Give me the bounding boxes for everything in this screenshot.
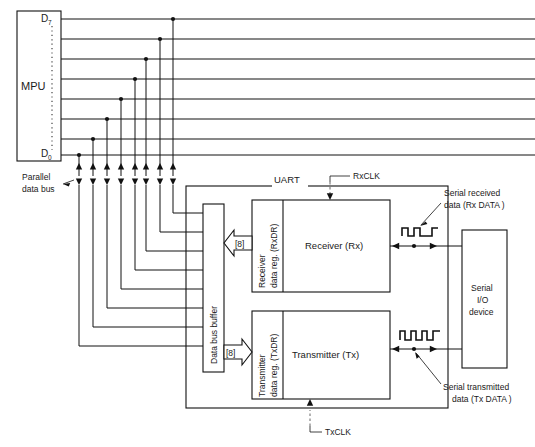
tx-waveform-tap-dot	[412, 347, 416, 351]
canvas-background	[0, 0, 535, 447]
receiver-label: Receiver (Rx)	[305, 240, 363, 251]
transmitter-reg-label-line1: Transmitter	[257, 354, 267, 397]
junction-dot-3	[119, 97, 123, 101]
uart-block-diagram: MPU D 7 D 0	[0, 0, 535, 447]
mpu-pin-d0-subscript: 0	[48, 154, 52, 161]
rx-annotation-line2: data (Rx DATA )	[444, 200, 505, 210]
data-bus-buffer-label: Data bus buffer	[209, 306, 219, 364]
junction-dot-0	[77, 153, 81, 157]
tx-annotation-line1: Serial transmitted	[443, 382, 509, 392]
rxclk-label: RxCLK	[353, 171, 380, 181]
junction-dot-7	[171, 17, 175, 21]
serial-io-device-line3: device	[469, 307, 494, 317]
uart-label: UART	[274, 174, 300, 185]
bus-label-line2: data bus	[22, 184, 55, 194]
rx-data-waveform	[402, 228, 438, 236]
junction-dot-1	[91, 137, 95, 141]
mpu-pin-d7-subscript: 7	[48, 19, 52, 26]
rx-bus-width-label: [8]	[235, 239, 244, 249]
txclk-label: TxCLK	[325, 427, 351, 437]
transmitter-reg-label-line2: data reg. (TxDR)	[269, 334, 279, 397]
rx-waveform-tap-dot	[412, 244, 416, 248]
bus-label-line1: Parallel	[22, 172, 50, 182]
junction-dot-2	[105, 117, 109, 121]
tx-bus-width-label: [8]	[226, 348, 235, 358]
tx-annotation-line2: data (Tx DATA )	[452, 394, 512, 404]
serial-io-device-line2: I/O	[477, 295, 489, 305]
junction-dot-4	[133, 77, 137, 81]
transmitter-label: Transmitter (Tx)	[292, 349, 359, 360]
receiver-reg-label-line2: data reg. (RxDR)	[269, 224, 279, 288]
receiver-reg-label-line1: Receiver	[257, 254, 267, 288]
junction-dot-5	[144, 57, 148, 61]
serial-io-device-line1: Serial	[471, 283, 493, 293]
mpu-label: MPU	[21, 80, 46, 92]
junction-dot-6	[158, 37, 162, 41]
rx-annotation-line1: Serial received	[444, 188, 500, 198]
